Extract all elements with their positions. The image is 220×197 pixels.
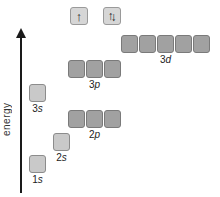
orbital-group-2s: 2s bbox=[53, 133, 70, 163]
orbital-box bbox=[29, 155, 46, 173]
orbital-box bbox=[53, 133, 70, 151]
orbital-box bbox=[68, 110, 85, 128]
orbital-box bbox=[104, 110, 121, 128]
orbital-label-2p: 2p bbox=[68, 129, 121, 140]
orbital-boxes-2p bbox=[68, 110, 121, 128]
orbital-label-3d: 3d bbox=[121, 54, 210, 65]
energy-axis-label: energy bbox=[1, 78, 12, 136]
orbital-box bbox=[86, 60, 103, 78]
orbital-label-1s: 1s bbox=[29, 174, 46, 185]
orbital-boxes-3s bbox=[29, 84, 46, 102]
orbital-box bbox=[121, 35, 138, 53]
orbital-group-3d: 3d bbox=[121, 35, 210, 65]
paired-electron-spin-box: ↑ ↓ bbox=[103, 7, 121, 25]
orbital-box bbox=[29, 84, 46, 102]
orbital-label-2s: 2s bbox=[53, 152, 70, 163]
orbital-box bbox=[86, 110, 103, 128]
orbital-box bbox=[68, 60, 85, 78]
orbital-group-3p: 3p bbox=[68, 60, 121, 90]
orbital-box bbox=[193, 35, 210, 53]
orbital-group-2p: 2p bbox=[68, 110, 121, 140]
orbital-group-3s: 3s bbox=[29, 84, 46, 114]
orbital-boxes-1s bbox=[29, 155, 46, 173]
orbital-label-3s: 3s bbox=[29, 103, 46, 114]
orbital-boxes-3p bbox=[68, 60, 121, 78]
orbital-box bbox=[157, 35, 174, 53]
orbital-energy-diagram: ↑ ↑ ↓ energy 3d 3p 3s 2p 2s 1s bbox=[0, 0, 220, 197]
orbital-label-3p: 3p bbox=[68, 79, 121, 90]
orbital-box bbox=[104, 60, 121, 78]
energy-axis-line bbox=[20, 37, 22, 193]
orbital-boxes-2s bbox=[53, 133, 70, 151]
single-electron-spin-box: ↑ bbox=[70, 7, 88, 25]
orbital-boxes-3d bbox=[121, 35, 210, 53]
orbital-group-1s: 1s bbox=[29, 155, 46, 185]
orbital-box bbox=[139, 35, 156, 53]
orbital-box bbox=[175, 35, 192, 53]
spin-up-arrow-icon: ↑ bbox=[76, 10, 83, 23]
spin-down-arrow-icon: ↓ bbox=[111, 11, 117, 23]
